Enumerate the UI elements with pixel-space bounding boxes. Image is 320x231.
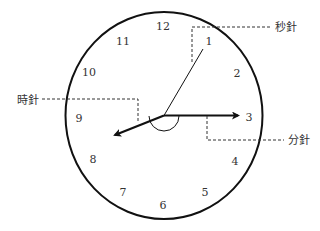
number-4: 4 — [232, 155, 239, 168]
angle-arc — [149, 116, 179, 131]
hour-hand — [115, 116, 164, 136]
number-12: 12 — [156, 20, 170, 33]
hour-hand-leader — [42, 99, 138, 121]
number-7: 7 — [120, 186, 127, 199]
number-10: 10 — [82, 66, 96, 79]
number-5: 5 — [202, 186, 209, 199]
hour-hand-label: 時針 — [17, 93, 39, 107]
number-6: 6 — [160, 199, 167, 212]
clock-diagram: 12 1 2 3 4 5 6 7 8 9 10 11 秒針 時針 分針 — [0, 0, 320, 231]
number-1: 1 — [206, 35, 213, 48]
minute-hand-label: 分針 — [288, 133, 310, 147]
number-11: 11 — [116, 35, 130, 48]
second-hand-leader — [192, 27, 272, 62]
number-8: 8 — [90, 153, 97, 166]
number-3: 3 — [246, 111, 253, 124]
second-hand-label: 秒針 — [275, 20, 297, 34]
number-9: 9 — [76, 112, 83, 125]
number-2: 2 — [234, 67, 241, 80]
second-hand — [164, 49, 203, 116]
